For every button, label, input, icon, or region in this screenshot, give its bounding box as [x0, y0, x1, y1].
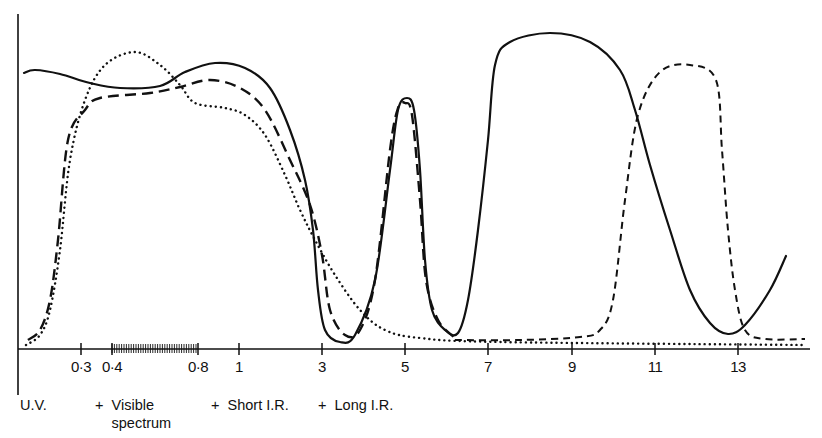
band-label-visible: + Visible spectrum [95, 396, 172, 432]
x-tick-label: 0·3 [71, 358, 91, 375]
curves [24, 33, 805, 345]
x-tick-label: 5 [401, 358, 409, 375]
curve-short-dashed [455, 64, 805, 340]
band-label-long-ir: + Long I.R. [318, 396, 393, 414]
curve-solid [24, 33, 786, 343]
curve-dotted [26, 52, 805, 345]
x-tick-label: 1 [235, 358, 243, 375]
x-tick-label: 11 [648, 358, 663, 375]
x-tick-label: 9 [568, 358, 576, 375]
band-label-short-ir: + Short I.R. [211, 396, 289, 414]
x-tick-label: 0·4 [102, 358, 122, 375]
curve-long-dashed [28, 80, 455, 340]
x-tick-label: 13 [730, 358, 746, 375]
spectrum-chart [0, 0, 822, 438]
x-tick-label: 3 [318, 358, 326, 375]
x-tick-label: 0·8 [188, 358, 208, 375]
band-label-uv: U.V. [20, 396, 47, 414]
x-tick-label: 7 [484, 358, 492, 375]
